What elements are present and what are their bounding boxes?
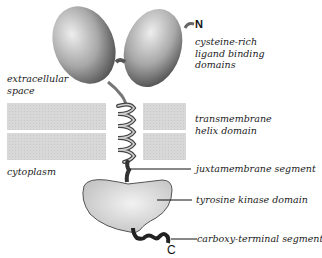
juxtamembrane-segment [127, 160, 129, 182]
membrane [7, 103, 186, 160]
cytoplasm-label: cytoplasm [7, 166, 56, 178]
kinase-label: tyrosine kinase domain [196, 194, 308, 206]
ligand-binding-label: cysteine-rich ligand binding domains [195, 36, 265, 71]
carboxy-label: carboxy-terminal segment [197, 233, 322, 245]
juxtamembrane-label: juxtamembrane segment [196, 163, 316, 175]
transmembrane-label: transmembrane helix domain [195, 113, 272, 136]
transmembrane-helix [118, 104, 134, 162]
c-terminus-label: C [167, 243, 176, 257]
n-terminus-label: N [195, 18, 203, 30]
rtk-diagram: N C cysteine-rich ligand binding domains… [0, 0, 322, 258]
diagram-artwork [0, 0, 322, 258]
tyrosine-kinase-domain [83, 180, 172, 233]
extracellular-label: extracellular space [7, 73, 68, 96]
